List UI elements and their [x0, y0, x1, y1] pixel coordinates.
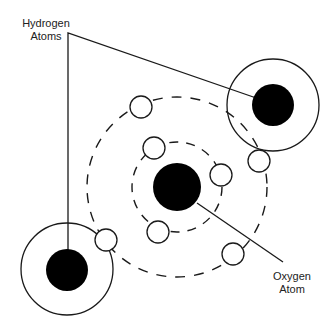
- outer-electron: [222, 243, 244, 265]
- hydrogen-label-line1: Hydrogen: [14, 17, 78, 30]
- hydrogen-atoms-label: Hydrogen Atoms: [14, 17, 78, 43]
- inner-electron: [147, 221, 169, 243]
- oxygen-label-line1: Oxygen: [262, 270, 322, 283]
- hydrogen-label-line2: Atoms: [14, 30, 78, 43]
- hydrogen-nucleus-top-right: [252, 84, 294, 126]
- inner-electron: [210, 164, 232, 186]
- outer-electron: [95, 229, 117, 251]
- inner-electron: [143, 137, 165, 159]
- oxygen-atom-label: Oxygen Atom: [262, 270, 322, 296]
- hydrogen-leader-line: [68, 33, 262, 252]
- hydrogen-nucleus-bottom-left: [46, 249, 88, 291]
- outer-electron: [130, 96, 152, 118]
- oxygen-nucleus: [153, 163, 201, 211]
- outer-electron: [248, 150, 270, 172]
- oxygen-label-line2: Atom: [262, 283, 322, 296]
